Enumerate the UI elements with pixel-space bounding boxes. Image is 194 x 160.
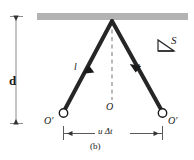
end-circle-right bbox=[158, 109, 166, 117]
vertical-dimension-line bbox=[10, 17, 23, 124]
ceiling-bar bbox=[37, 13, 188, 20]
label-origin-right: O′ bbox=[168, 116, 177, 126]
label-origin-left: O′ bbox=[44, 116, 53, 126]
end-circle-left bbox=[59, 109, 67, 117]
label-frame-s: S bbox=[171, 35, 177, 46]
horizontal-dimension-line bbox=[64, 126, 163, 140]
label-arm-left-length: l bbox=[74, 62, 77, 72]
label-horizontal-distance: u Δt bbox=[98, 127, 113, 136]
label-arm-right-length: l bbox=[137, 63, 140, 73]
diagram-canvas bbox=[0, 0, 194, 160]
label-vertical-distance: d bbox=[9, 74, 16, 87]
figure-caption: (b) bbox=[90, 142, 101, 151]
figure-container: d l l O O′ O′ u Δt S (b) bbox=[0, 0, 194, 160]
label-origin-center: O bbox=[106, 102, 113, 112]
